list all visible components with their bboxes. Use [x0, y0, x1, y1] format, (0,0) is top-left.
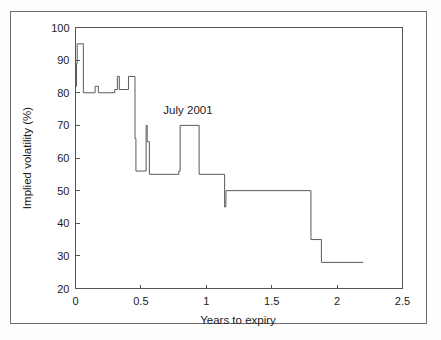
y-tick-label-40: 40: [57, 217, 69, 229]
x-tick-label-1.5: 1.5: [264, 295, 279, 307]
x-tick-label-2: 2: [334, 295, 340, 307]
x-axis-tick-labels: 00.511.522.5: [72, 295, 410, 307]
plot-axes: [76, 28, 403, 289]
implied-volatility-chart: 2030405060708090100 00.511.522.5 Years t…: [0, 0, 441, 340]
y-tick-label-100: 100: [51, 22, 69, 34]
y-tick-label-20: 20: [57, 283, 69, 295]
x-axis-ticks: [76, 285, 403, 289]
y-tick-label-70: 70: [57, 119, 69, 131]
y-tick-label-50: 50: [57, 185, 69, 197]
series-implied-volatility: [76, 44, 364, 263]
annotation-july-2001: July 2001: [163, 104, 212, 116]
x-axis-title: Years to expiry: [200, 314, 276, 326]
y-axis-title: Implied volatility (%): [21, 107, 33, 209]
y-tick-label-80: 80: [57, 87, 69, 99]
y-tick-label-30: 30: [57, 250, 69, 262]
x-tick-label-1: 1: [203, 295, 209, 307]
x-tick-label-0.5: 0.5: [133, 295, 148, 307]
y-tick-label-90: 90: [57, 54, 69, 66]
axis-box: [76, 28, 403, 289]
x-tick-label-0: 0: [72, 295, 78, 307]
y-tick-label-60: 60: [57, 152, 69, 164]
x-tick-label-2.5: 2.5: [395, 295, 410, 307]
y-axis-tick-labels: 2030405060708090100: [51, 22, 69, 295]
figure-page: 2030405060708090100 00.511.522.5 Years t…: [0, 0, 441, 340]
data-series-group: [76, 44, 364, 263]
